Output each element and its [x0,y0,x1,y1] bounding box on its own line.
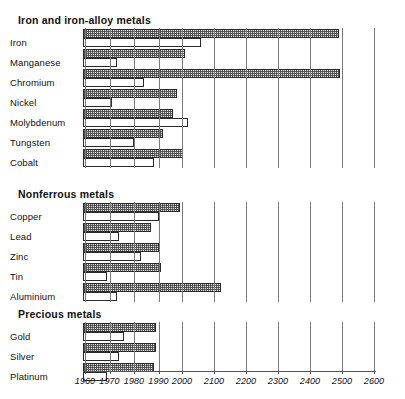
row-label-copper: Copper [10,211,42,222]
bar-shaded-chromium [83,69,340,78]
x-tick-2600 [374,371,375,374]
bar-shaded-manganese [83,49,185,58]
bar-open-aluminium [83,292,117,301]
gridline-2200 [246,28,247,168]
row-label-nickel: Nickel [10,97,36,108]
x-tick-2000 [182,371,183,374]
bar-open-zinc [83,252,141,261]
gridline-2200 [246,202,247,302]
bar-shaded-nickel [83,89,177,98]
x-tick-label-2600: 2600 [364,376,384,386]
bar-shaded-tin [83,263,161,272]
gridline-2100 [214,28,215,168]
bar-shaded-lead [83,223,151,232]
x-tick-label-2000: 2000 [172,376,192,386]
gridline-2500 [342,202,343,302]
bar-open-gold [83,332,124,341]
gridline-1990 [159,28,160,168]
bar-shaded-silver [83,343,156,352]
bar-shaded-zinc [83,243,159,252]
row-label-tin: Tin [10,271,23,282]
gridline-2100 [214,322,215,371]
gridline-2000 [182,322,183,371]
row-label-zinc: Zinc [10,251,28,262]
gridline-2400 [310,322,311,371]
bar-shaded-tungsten [83,129,163,138]
gridline-2500 [342,322,343,371]
gridline-1960 [85,28,86,168]
row-label-aluminium: Aluminium [10,291,55,302]
bar-shaded-cobalt [83,149,183,158]
x-tick-label-1960: 1960 [75,376,95,386]
bar-open-copper [83,212,159,221]
gridline-1990 [159,322,160,371]
x-tick-1990 [159,371,160,374]
bar-open-tin [83,272,107,281]
gridline-1960 [85,202,86,302]
x-tick-2300 [278,371,279,374]
row-label-lead: Lead [10,231,32,242]
gridline-1980 [134,28,135,168]
bar-open-silver [83,352,119,361]
gridline-2300 [278,202,279,302]
x-tick-2400 [310,371,311,374]
bar-shaded-copper [83,203,180,212]
row-label-molybdenum: Molybdenum [10,117,65,128]
metal-reserves-chart: Iron and iron-alloy metalsIronManganeseC… [0,0,405,399]
x-tick-2200 [246,371,247,374]
section-title-2: Precious metals [18,308,102,320]
section-title-0: Iron and iron-alloy metals [18,14,151,26]
gridline-2000 [182,28,183,168]
x-tick-label-2300: 2300 [268,376,288,386]
gridline-2600 [374,28,375,168]
row-label-manganese: Manganese [10,57,61,68]
row-label-silver: Silver [10,351,34,362]
x-tick-label-2100: 2100 [204,376,224,386]
bar-open-manganese [83,58,117,67]
x-tick-label-1970: 1970 [99,376,119,386]
section-title-1: Nonferrous metals [18,188,114,200]
gridline-2100 [214,202,215,302]
x-tick-1970 [110,371,111,374]
gridline-2000 [182,202,183,302]
bar-open-chromium [83,78,144,87]
gridline-2400 [310,202,311,302]
bar-open-tungsten [83,138,134,147]
row-label-platinum: Platinum [10,371,48,382]
gridline-2400 [310,28,311,168]
gridline-1980 [134,322,135,371]
x-tick-label-2400: 2400 [300,376,320,386]
x-tick-1980 [134,371,135,374]
gridline-2500 [342,28,343,168]
x-tick-label-1980: 1980 [124,376,144,386]
bar-shaded-aluminium [83,283,221,292]
bar-open-nickel [83,98,112,107]
gridline-2300 [278,322,279,371]
gridline-2200 [246,322,247,371]
gridline-1970 [110,28,111,168]
gridline-1980 [134,202,135,302]
gridline-1990 [159,202,160,302]
gridline-1960 [85,322,86,371]
x-tick-label-1990: 1990 [148,376,168,386]
bar-shaded-molybdenum [83,109,173,118]
gridline-1970 [110,202,111,302]
gridline-2600 [374,322,375,371]
row-label-iron: Iron [10,37,27,48]
x-axis-line [83,371,376,372]
gridline-1970 [110,322,111,371]
bar-shaded-gold [83,323,156,332]
x-tick-label-2500: 2500 [332,376,352,386]
gridline-2600 [374,202,375,302]
x-tick-2100 [214,371,215,374]
bar-open-cobalt [83,158,154,167]
bar-open-iron [83,38,201,47]
row-label-tungsten: Tungsten [10,137,50,148]
row-label-cobalt: Cobalt [10,157,38,168]
row-label-chromium: Chromium [10,77,55,88]
bar-shaded-iron [83,29,339,38]
gridline-2300 [278,28,279,168]
bar-open-lead [83,232,119,241]
bar-open-molybdenum [83,118,188,127]
x-tick-1960 [85,371,86,374]
